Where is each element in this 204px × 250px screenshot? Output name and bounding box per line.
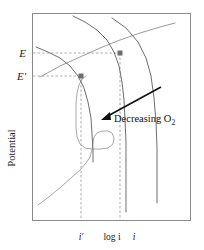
- decreasing-o2-subscript: 2: [171, 118, 175, 127]
- intersection-marker-E-prime: [79, 74, 84, 79]
- intersection-marker-E: [118, 51, 123, 56]
- potential-label-E: E: [18, 47, 26, 59]
- potential-label-E-prime: E': [16, 70, 27, 82]
- x-tick-label-i-prime: i': [79, 232, 85, 242]
- decreasing-o2-main-text: Decreasing O: [114, 113, 172, 124]
- evans-diagram-figure: E E' Potential i' log i i Decreasing O2: [0, 0, 204, 250]
- y-axis-label: Potential: [6, 129, 17, 166]
- x-tick-label-i: i: [133, 232, 136, 242]
- x-axis-label-log-i: log i: [103, 232, 121, 242]
- plot-canvas: E E' Potential i' log i i Decreasing O2: [0, 0, 204, 250]
